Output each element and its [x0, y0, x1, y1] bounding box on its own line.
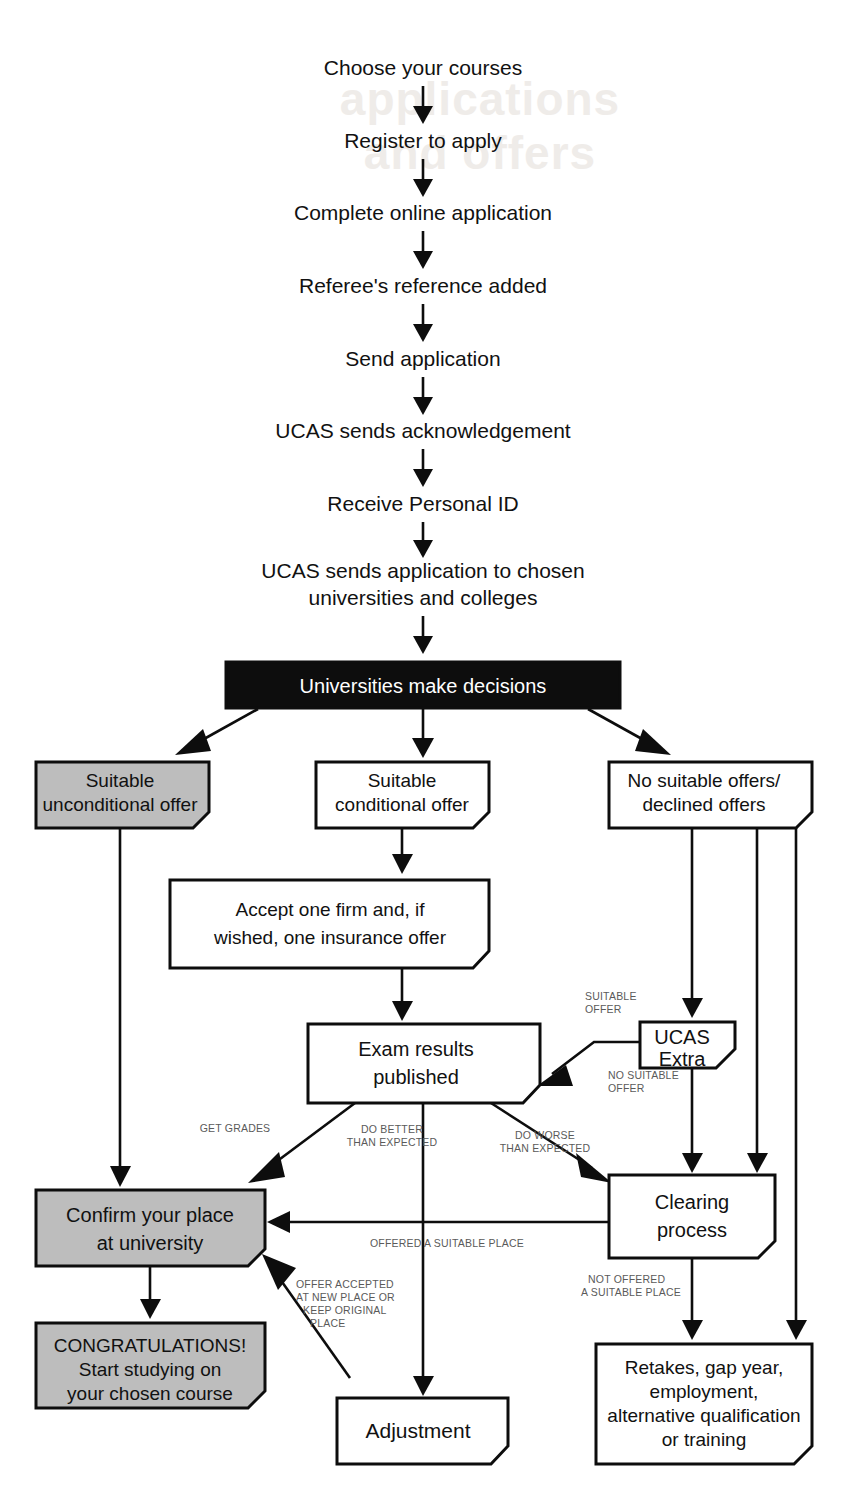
label-do-better-line2: THAN EXPECTED — [347, 1136, 438, 1148]
suitable-unconditional-offer-line2: unconditional offer — [43, 794, 199, 815]
universities-make-decisions-label: Universities make decisions — [300, 675, 547, 697]
label-not-offered-line1: NOT OFFERED — [588, 1273, 665, 1285]
connector-clearing-to-confirm — [267, 1211, 608, 1233]
confirm-place-line1: Confirm your place — [66, 1204, 234, 1226]
step-receive-personal-id: Receive Personal ID — [327, 492, 518, 515]
step-send-application: Send application — [345, 347, 500, 370]
ucas-extra-line1: UCAS — [654, 1026, 710, 1048]
arrow-send-to-ack — [413, 377, 433, 415]
flowchart-canvas: applications and offers Choose your cour… — [0, 0, 847, 1487]
connector-clearing-to-retakes — [682, 1258, 703, 1340]
arrow-ack-to-personal-id — [413, 449, 433, 487]
label-no-suitable-offer-line1: NO SUITABLE — [608, 1069, 679, 1081]
label-get-grades: GET GRADES — [200, 1122, 271, 1134]
arrow-referee-to-send — [413, 304, 433, 342]
label-no-suitable-offer-line2: OFFER — [608, 1082, 645, 1094]
step-complete-application: Complete online application — [294, 201, 552, 224]
congratulations-line2: Start studying on — [79, 1359, 222, 1380]
step-send-to-unis-line1: UCAS sends application to chosen — [261, 559, 584, 582]
connector-unconditional-to-confirm — [110, 828, 131, 1187]
ucas-extra-line2: Extra — [659, 1048, 707, 1070]
retakes-line2: employment, — [650, 1381, 759, 1402]
connector-exam-get-grades — [248, 1103, 355, 1183]
connector-no-offers-to-retakes — [786, 828, 807, 1340]
clearing-process-box — [609, 1175, 775, 1258]
congratulations-line3: your chosen course — [67, 1383, 233, 1404]
adjustment-label: Adjustment — [365, 1419, 470, 1442]
arrow-unis-to-decision — [413, 616, 433, 654]
accept-offer-line1: Accept one firm and, if — [235, 899, 425, 920]
label-offer-accepted-line2: AT NEW PLACE OR — [296, 1291, 395, 1303]
step-send-to-unis-line2: universities and colleges — [309, 586, 538, 609]
label-suitable-offer-line2: OFFER — [585, 1003, 622, 1015]
retakes-line1: Retakes, gap year, — [625, 1357, 783, 1378]
clearing-line2: process — [657, 1219, 727, 1241]
arrow-decision-to-no-offers — [588, 709, 671, 755]
label-do-better-line1: DO BETTER — [361, 1123, 423, 1135]
arrow-decision-to-unconditional — [175, 709, 258, 755]
exam-results-line1: Exam results — [358, 1038, 474, 1060]
step-ucas-acknowledgement: UCAS sends acknowledgement — [275, 419, 570, 442]
flowchart-svg: Choose your courses Register to apply Co… — [0, 0, 847, 1487]
arrow-conditional-to-accept — [392, 828, 413, 874]
accept-offer-line2: wished, one insurance offer — [213, 927, 447, 948]
arrow-register-to-complete — [413, 159, 433, 197]
connector-ucas-extra-to-clearing — [682, 1068, 703, 1173]
congratulations-line1: CONGRATULATIONS! — [54, 1335, 246, 1356]
step-choose-courses: Choose your courses — [324, 56, 522, 79]
step-referee-reference: Referee's reference added — [299, 274, 547, 297]
accept-offer-box — [170, 880, 489, 968]
retakes-line3: alternative qualification — [607, 1405, 800, 1426]
suitable-conditional-offer-line1: Suitable — [368, 770, 437, 791]
arrow-decision-to-conditional — [412, 709, 434, 758]
exam-results-line2: published — [373, 1066, 459, 1088]
no-suitable-offers-line1: No suitable offers/ — [628, 770, 782, 791]
label-offer-accepted-line1: OFFER ACCEPTED — [296, 1278, 394, 1290]
suitable-conditional-offer-line2: conditional offer — [335, 794, 469, 815]
confirm-place-box — [36, 1190, 265, 1266]
label-not-offered-line2: A SUITABLE PLACE — [581, 1286, 681, 1298]
arrow-confirm-to-congratulations — [140, 1266, 161, 1319]
arrow-personal-id-to-unis — [413, 522, 433, 558]
label-suitable-offer-line1: SUITABLE — [585, 990, 637, 1002]
no-suitable-offers-line2: declined offers — [642, 794, 765, 815]
label-do-worse-line2: THAN EXPECTED — [500, 1142, 591, 1154]
label-offer-accepted-line4: PLACE — [310, 1317, 345, 1329]
suitable-unconditional-offer-line1: Suitable — [86, 770, 155, 791]
connector-no-offers-to-clearing — [747, 828, 768, 1173]
label-offered-suitable-place: OFFERED A SUITABLE PLACE — [370, 1237, 524, 1249]
label-do-worse-line1: DO WORSE — [515, 1129, 575, 1141]
connector-no-offers-to-ucas-extra — [682, 828, 703, 1018]
arrow-complete-to-referee — [413, 231, 433, 269]
label-offer-accepted-line3: KEEP ORIGINAL — [303, 1304, 387, 1316]
retakes-line4: or training — [662, 1429, 747, 1450]
confirm-place-line2: at university — [97, 1232, 204, 1254]
connector-adjustment-to-confirm — [262, 1254, 350, 1378]
exam-results-box — [308, 1024, 540, 1103]
clearing-line1: Clearing — [655, 1191, 729, 1213]
arrow-choose-to-register — [413, 86, 433, 124]
step-register-to-apply: Register to apply — [344, 129, 502, 152]
arrow-accept-to-exam-results — [392, 968, 413, 1021]
